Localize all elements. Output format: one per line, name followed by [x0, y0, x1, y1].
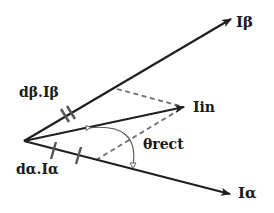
i-in-label: Iin [193, 100, 215, 114]
vector-diagram [0, 0, 274, 213]
d-beta-component-label: dβ.Iβ [19, 85, 59, 99]
projection-line-beta [117, 89, 184, 107]
projection-line-alpha [96, 107, 184, 160]
theta-rect-label: θrect [143, 137, 184, 151]
i-beta-axis-arrow [24, 19, 231, 141]
arc-end-marker-icon [130, 163, 136, 168]
i-beta-label: Iβ [236, 15, 253, 30]
i-alpha-label: Iα [238, 186, 257, 201]
tick-mark-alpha-1 [51, 142, 56, 159]
d-alpha-component-label: dα.Iα [16, 162, 59, 176]
